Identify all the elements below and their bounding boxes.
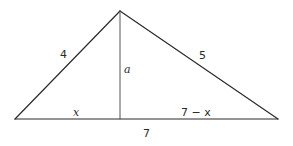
label-altitude: a — [124, 63, 131, 76]
triangle-diagram: 4 5 a x 7 − x 7 — [0, 0, 293, 146]
side-left — [15, 11, 120, 119]
side-right — [120, 11, 278, 119]
label-left-side: 4 — [60, 48, 67, 61]
label-base-total: 7 — [143, 127, 150, 140]
label-base-right-segment: 7 − x — [181, 106, 211, 119]
label-right-side: 5 — [199, 49, 206, 62]
label-base-left-segment: x — [73, 106, 80, 119]
